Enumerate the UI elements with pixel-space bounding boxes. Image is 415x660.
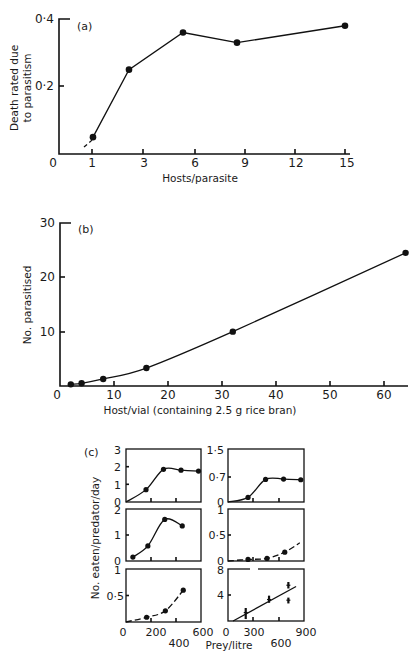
panel-a-ytick-0-4: 0·4 [35,12,54,26]
panel-c-left-bottom-box [126,569,201,622]
data-point [161,467,166,472]
panel-a-xlabel: Hosts/parasite [162,172,238,184]
panel-c-right-xtick-300: 300 [244,626,265,639]
panel-c-right-bottom-ytick-4: 4 [217,589,224,602]
panel-b-xtick-10: 10 [106,388,121,402]
panel-a-xtick-3: 3 [140,156,148,170]
data-point [178,468,183,473]
data-point [90,134,97,141]
panel-a: 0·4 0·2 0 1 3 6 9 12 15 (a) Hosts/parasi… [8,12,355,184]
data-point [230,328,236,334]
panel-c-right-xtick-900: 900 [296,626,317,639]
panel-c-left-xtick-600: 600 [193,626,214,639]
panel-b-axes [60,223,408,386]
panel-b-origin-label: 0 [53,388,61,402]
data-point [145,543,150,548]
data-point [100,376,106,382]
panel-c-right-bottom-box [228,569,304,621]
panel-c-left-middle-ytick-2: 2 [114,504,121,517]
data-point [245,495,250,500]
data-point [126,66,133,73]
data-point [402,250,408,256]
panel-c-left-top-ytick-3: 3 [114,444,121,457]
panel-c-fit-line [233,587,296,621]
panel-c-right-middle-ytick-1: 1 [217,504,224,517]
panel-c-left-bottom-ytick-0-5: 0·5 [107,590,125,603]
data-point [264,556,269,561]
data-point [162,517,167,522]
panel-a-label: (a) [77,20,92,33]
panel-c-right-bottom-ytick-8: 8 [217,564,224,577]
panel-a-xtick-1: 1 [88,156,96,170]
panel-b-ytick-30: 30 [40,216,55,230]
panel-c-right-middle-ytick-0-5: 0·5 [209,529,227,542]
panel-b-ylabel: No. parasitised [21,266,33,345]
panel-c-right-top-ytick-0-7: 0·7 [209,471,227,484]
panel-a-xtick-15: 15 [339,156,354,170]
data-point [263,477,268,482]
panel-a-data-series [84,22,348,147]
figure-canvas: 0·4 0·2 0 1 3 6 9 12 15 (a) Hosts/parasi… [0,0,415,660]
data-point [281,476,286,481]
panel-c-left-top-ytick-2: 2 [114,461,121,474]
panel-a-origin-label: 0 [49,156,57,170]
panel-c-right-xtick-600: 600 [271,637,292,650]
data-point [298,477,303,482]
panel-c-label: (c) [84,446,99,459]
panel-a-xtick-9: 9 [241,156,249,170]
data-point [180,29,187,36]
panel-c-left-xtick-200: 200 [146,626,167,639]
panel-b-xlabel: Host/vial (containing 2.5 g rice bran) [104,404,297,416]
panel-c-ylabel: No. eaten/predator/day [89,477,101,599]
data-point [180,523,185,528]
panel-a-ylabel-line2: to parasitism [21,54,33,123]
panel-c-left-xtick-0: 0 [120,626,127,639]
panel-b-xtick-60: 60 [376,388,391,402]
panel-a-xtick-12: 12 [288,156,303,170]
panel-a-ytick-0-2: 0·2 [35,79,54,93]
panel-c-right-xtick-0: 0 [223,626,230,639]
panel-b-xtick-20: 20 [160,388,175,402]
data-point [143,487,148,492]
panel-a-line [93,26,345,137]
panel-c-xlabel: Prey/litre [206,639,253,651]
panel-b-ytick-20: 20 [40,270,55,284]
data-point [196,468,201,473]
panel-c-left-xtick-400: 400 [169,637,190,650]
data-point [130,555,135,560]
panel-a-xtick-6: 6 [191,156,199,170]
data-point [163,608,168,613]
panel-c-data-series [126,467,303,622]
panel-c-left-top-ytick-1: 1 [114,479,121,492]
panel-c-left-middle-ytick-1: 1 [114,529,121,542]
data-point [143,365,149,371]
panel-b-xtick-40: 40 [268,388,283,402]
panel-c-right-top-box [228,449,304,502]
data-point [144,615,149,620]
panel-b-ytick-10: 10 [40,325,55,339]
panel-a-axes [59,19,350,154]
panel-c: (c) No. eaten/predator/day [84,444,317,651]
panel-b-data-series [68,250,409,388]
data-point [245,557,250,562]
data-point [234,39,241,46]
panel-b-xtick-50: 50 [322,388,337,402]
panel-c-left-middle-box [126,509,201,561]
panel-c-right-top-ytick-1-5: 1·5 [207,444,225,457]
panel-c-right-middle-box [228,509,304,561]
panel-c-left-top-box [126,449,201,502]
data-point [342,22,349,29]
panel-b: 30 20 10 0 10 20 30 40 50 60 (b) Host/vi… [21,216,409,416]
panel-b-fitted-curve [68,253,406,385]
data-point [78,380,84,386]
panel-b-label: (b) [78,223,94,236]
data-point [181,588,186,593]
panel-c-left-bottom-ytick-1: 1 [114,564,121,577]
data-point [68,381,74,387]
panel-b-xtick-30: 30 [214,388,229,402]
panel-a-ylabel-line1: Death rated due [8,45,20,131]
data-point [282,550,287,555]
